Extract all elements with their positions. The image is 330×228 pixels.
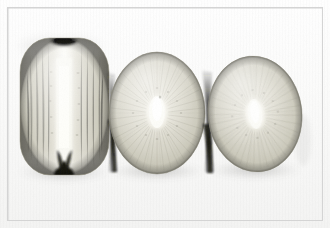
photograph: Three kiwifruit halves on a plain white …: [0, 0, 330, 228]
kiwifruit-photo-canvas: [0, 0, 330, 228]
film-grain: [0, 0, 330, 228]
